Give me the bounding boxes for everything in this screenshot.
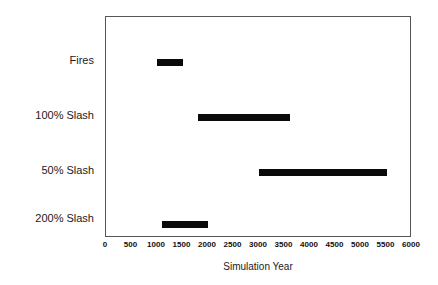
x-tick-label-6000: 6000 [402,240,420,250]
x-tick-label-500: 500 [124,240,137,250]
category-label-200-slash: 200% Slash [35,212,94,224]
x-tick-label-4000: 4000 [300,240,318,250]
bar-100-slash [198,114,290,121]
x-tick-label-4500: 4500 [326,240,344,250]
x-tick-label-2500: 2500 [224,240,242,250]
x-tick-label-1500: 1500 [173,240,191,250]
bar-200-slash [162,221,208,228]
bar-50-slash [259,169,387,176]
x-tick-label-1000: 1000 [147,240,165,250]
plot-frame [105,16,411,237]
x-tick-label-2000: 2000 [198,240,216,250]
category-label-fires: Fires [70,54,94,66]
x-tick-label-5000: 5000 [351,240,369,250]
x-axis-tick-labels: 0500100015002000250030003500400045005000… [105,240,411,254]
x-tick-label-3000: 3000 [249,240,267,250]
category-axis-labels: Fires 100% Slash 50% Slash 200% Slash [0,16,100,237]
x-tick-label-5500: 5500 [377,240,395,250]
category-label-100-slash: 100% Slash [35,109,94,121]
bar-fires [157,59,183,66]
x-axis-title: Simulation Year [105,261,411,273]
x-tick-label-3500: 3500 [275,240,293,250]
chart-figure: Fires 100% Slash 50% Slash 200% Slash 05… [0,0,438,285]
plot-area [106,17,410,236]
x-tick-label-0: 0 [103,240,107,250]
category-label-50-slash: 50% Slash [41,164,94,176]
